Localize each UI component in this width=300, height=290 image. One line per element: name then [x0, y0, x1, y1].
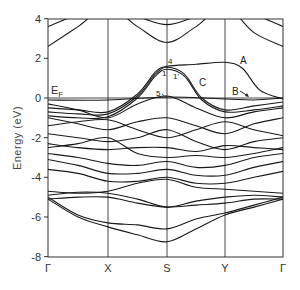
bands: [48, 7, 283, 242]
y-axis-title: Energy (eV): [11, 106, 23, 170]
band-structure-chart: 420-2-4-6-8 ΓXSYΓ Energy (eV) EF A B C 1…: [0, 0, 300, 290]
band-curve: [48, 169, 283, 184]
annotation-c: C: [199, 77, 206, 88]
kpoint-label: Γ: [280, 262, 286, 274]
y-tick-label: -6: [31, 211, 41, 223]
band-curve: [48, 118, 283, 134]
annotation-4: 4: [168, 57, 173, 66]
band-curve: [48, 179, 283, 193]
y-tick-label: -4: [31, 171, 41, 183]
annotation-a: A: [240, 55, 247, 66]
y-tick-label: 2: [35, 52, 41, 64]
fermi-level-label: EF: [51, 84, 63, 99]
band-curve: [48, 119, 283, 137]
annotation-b: B: [232, 86, 239, 97]
kpoint-label: S: [163, 262, 170, 274]
band-curve: [48, 144, 283, 152]
band-curve: [48, 199, 283, 242]
band-curve: [48, 7, 283, 47]
kpoint-label: Γ: [45, 262, 51, 274]
y-tick-label: -2: [31, 132, 41, 144]
band-curve: [48, 197, 283, 208]
band-curve: [48, 154, 283, 168]
annotation-1-prime: 1': [173, 72, 179, 81]
kpoint-label: X: [104, 262, 112, 274]
annotation-5: 5: [156, 89, 161, 98]
y-axis-ticks: 420-2-4-6-8: [31, 13, 48, 263]
band-curve: [48, 9, 283, 27]
y-tick-label: 0: [35, 92, 41, 104]
kpoint-labels: ΓXSYΓ: [45, 262, 286, 274]
y-tick-label: -8: [31, 251, 41, 263]
band-curve: [48, 97, 283, 100]
y-tick-label: 4: [35, 13, 41, 25]
annotation-1: 1: [162, 69, 167, 78]
kpoint-label: Y: [221, 262, 229, 274]
band-curve: [48, 197, 283, 229]
